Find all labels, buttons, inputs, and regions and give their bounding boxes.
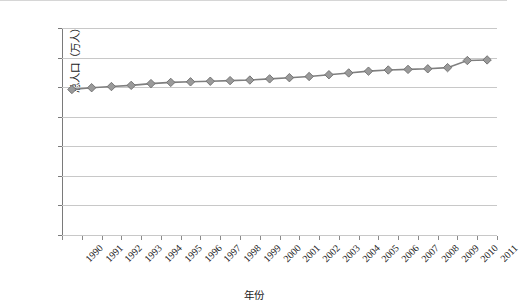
data-point-marker — [127, 81, 135, 89]
x-axis-tick-mark — [62, 236, 63, 240]
x-axis-tick-label: 2007 — [420, 243, 441, 264]
data-point-marker — [68, 85, 76, 93]
x-axis-tick-mark — [220, 236, 221, 240]
data-point-marker — [483, 56, 491, 64]
data-point-marker — [285, 73, 293, 81]
series-layer — [62, 28, 497, 235]
x-axis-tick-mark — [398, 236, 399, 240]
x-axis-tick-label: 1998 — [242, 243, 263, 264]
data-point-marker — [443, 63, 451, 71]
data-point-marker — [305, 72, 313, 80]
x-axis-tick-label: 2002 — [321, 243, 342, 264]
x-axis-tick-mark — [141, 236, 142, 240]
x-axis-tick-mark — [161, 236, 162, 240]
x-axis-tick-mark — [260, 236, 261, 240]
data-point-marker — [147, 79, 155, 87]
data-point-marker — [404, 65, 412, 73]
x-axis-tick-label: 2009 — [459, 243, 480, 264]
series-markers — [68, 56, 492, 94]
x-axis-tick-mark — [82, 236, 83, 240]
x-axis-tick-mark — [102, 236, 103, 240]
x-axis-tick-label: 1999 — [262, 243, 283, 264]
y-axis-title-container: 总人口（万人） — [0, 0, 40, 240]
x-axis-tick-mark — [457, 236, 458, 240]
x-axis-tick-label: 1991 — [104, 243, 125, 264]
x-axis-tick-label: 1994 — [163, 243, 184, 264]
x-axis-tick-label: 2010 — [479, 243, 500, 264]
x-axis-tick-label: 2005 — [380, 243, 401, 264]
data-point-marker — [325, 71, 333, 79]
x-axis-tick-mark — [299, 236, 300, 240]
x-axis-tick-mark — [359, 236, 360, 240]
x-axis-tick-mark — [339, 236, 340, 240]
x-axis-tick-label: 2000 — [281, 243, 302, 264]
x-axis-tick-label: 1990 — [84, 243, 105, 264]
data-point-marker — [226, 76, 234, 84]
x-axis-tick-mark — [240, 236, 241, 240]
data-point-marker — [364, 67, 372, 75]
x-axis-tick-mark — [200, 236, 201, 240]
x-axis-tick-label: 2008 — [440, 243, 461, 264]
plot-area — [62, 28, 497, 235]
data-point-marker — [107, 82, 115, 90]
x-axis-tick-mark — [121, 236, 122, 240]
data-point-marker — [463, 56, 471, 64]
x-axis-tick-label: 2001 — [301, 243, 322, 264]
x-axis-tick-label: 2011 — [499, 243, 520, 264]
data-point-marker — [87, 84, 95, 92]
x-axis-tick-mark — [280, 236, 281, 240]
data-point-marker — [384, 66, 392, 74]
x-axis-tick-mark — [319, 236, 320, 240]
data-point-marker — [345, 69, 353, 77]
x-axis-tick-mark — [497, 236, 498, 240]
x-axis-tick-mark — [438, 236, 439, 240]
x-axis-tick-label: 1993 — [143, 243, 164, 264]
data-point-marker — [186, 78, 194, 86]
x-axis-tick-mark — [181, 236, 182, 240]
x-axis-title: 年份 — [0, 287, 507, 302]
x-axis-tick-label: 1995 — [183, 243, 204, 264]
data-point-marker — [206, 77, 214, 85]
x-axis-tick-label: 1992 — [123, 243, 144, 264]
x-axis-tick-label: 1996 — [202, 243, 223, 264]
data-point-marker — [167, 78, 175, 86]
data-point-marker — [246, 76, 254, 84]
x-axis-tick-label: 2006 — [400, 243, 421, 264]
x-axis-tick-mark — [477, 236, 478, 240]
x-axis-tick-mark — [378, 236, 379, 240]
x-axis-tick-label: 1997 — [222, 243, 243, 264]
x-axis-tick-mark — [418, 236, 419, 240]
x-axis-tick-label: 2004 — [361, 243, 382, 264]
data-point-marker — [424, 65, 432, 73]
x-axis-tick-label: 2003 — [341, 243, 362, 264]
data-point-marker — [265, 75, 273, 83]
